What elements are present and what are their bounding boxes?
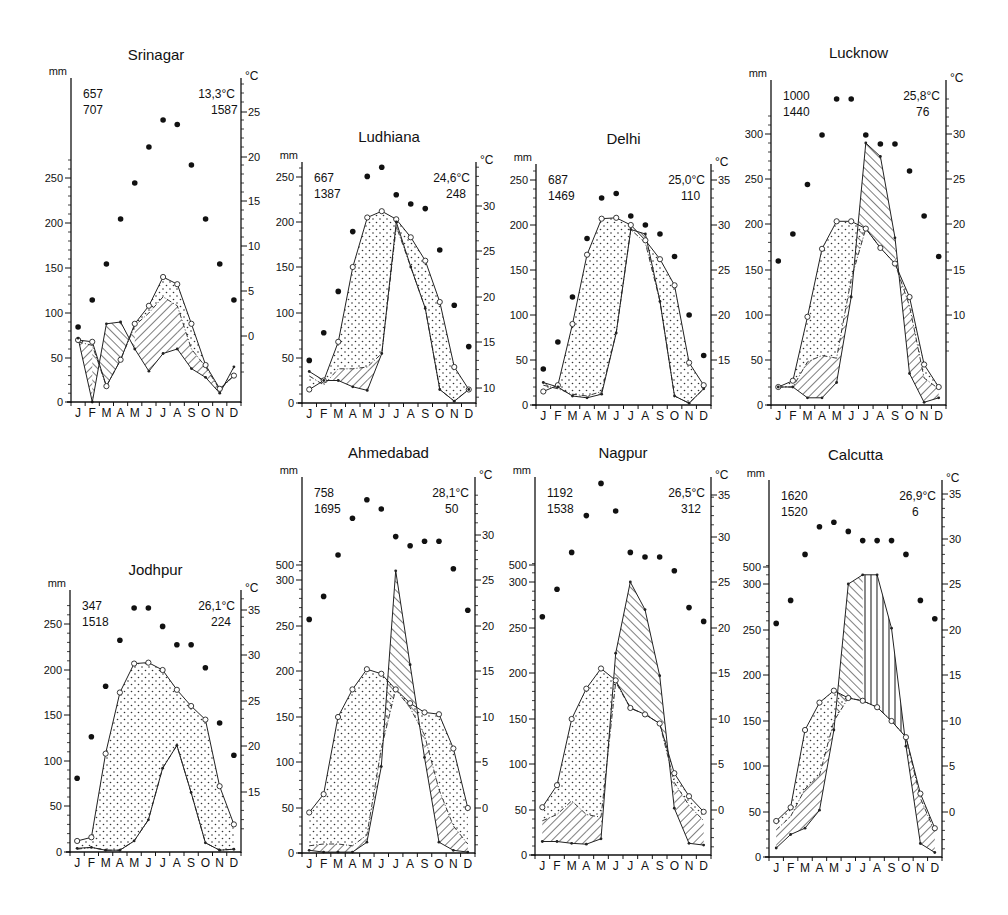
month-label: D — [463, 857, 472, 871]
right-axis-tick-label: 25 — [718, 576, 730, 588]
temperature-point — [408, 201, 414, 207]
left-axis-tick-label: 100 — [510, 309, 528, 321]
month-label: S — [656, 859, 664, 873]
month-label: J — [379, 407, 385, 421]
right-axis-tick-label: 15 — [483, 336, 495, 348]
temperature-point — [584, 236, 590, 242]
annual-precipitation: 758 — [314, 486, 334, 500]
month-label: N — [916, 861, 925, 875]
annual-potential-evapotranspiration: 1538 — [547, 502, 574, 516]
left-axis-unit: mm — [749, 67, 767, 79]
month-label: F — [553, 859, 560, 873]
month-label: J — [627, 859, 633, 873]
month-label: F — [320, 407, 327, 421]
left-axis-tick-label: 150 — [276, 261, 294, 273]
month-label: J — [306, 857, 312, 871]
left-axis-tick-label: 0 — [521, 849, 527, 861]
left-axis-tick-label: 250 — [44, 618, 62, 630]
mean-annual-temperature: 25,0°C — [668, 173, 705, 187]
temperature-point — [819, 132, 825, 138]
temperature-point — [231, 752, 237, 758]
month-label: J — [848, 409, 854, 423]
left-axis-tick-label: 150 — [745, 264, 763, 276]
right-axis-tick-label: 25 — [718, 264, 730, 276]
right-axis-tick-label: 5 — [949, 760, 955, 772]
left-axis-tick-label: 150 — [510, 264, 528, 276]
month-label: A — [876, 409, 884, 423]
left-axis-tick-label: 0 — [288, 847, 294, 859]
month-label: A — [116, 856, 124, 870]
right-axis-tick-label: 30 — [953, 128, 965, 140]
temperature-point — [160, 117, 166, 123]
right-axis-tick-label: 15 — [718, 354, 730, 366]
altitude-m: 312 — [681, 502, 701, 516]
temperature-point — [878, 141, 884, 147]
right-axis-tick-label: 20 — [248, 740, 260, 752]
month-label: A — [117, 406, 125, 420]
month-label: J — [160, 406, 166, 420]
left-axis-tick-label: 250 — [745, 173, 763, 185]
right-axis-tick-label: 30 — [483, 200, 495, 212]
left-axis-tick-label: 200 — [745, 218, 763, 230]
temperature-point — [863, 132, 869, 138]
right-axis-tick-label: 15 — [482, 665, 494, 677]
temperature-point — [628, 550, 634, 556]
temperature-point — [379, 164, 385, 170]
month-label: N — [685, 409, 694, 423]
month-label: O — [201, 406, 210, 420]
left-axis-unit: mm — [48, 577, 66, 589]
diagram-title: Ludhiana — [358, 128, 420, 145]
month-label: O — [901, 861, 910, 875]
left-axis-tick-label: 250 — [276, 620, 294, 632]
right-axis-tick-label: 30 — [248, 649, 260, 661]
month-label: S — [421, 407, 429, 421]
temperature-point — [540, 614, 546, 620]
left-axis-unit: mm — [513, 464, 531, 476]
right-axis-unit: °C — [946, 471, 960, 485]
month-label: A — [583, 409, 591, 423]
month-label: J — [306, 407, 312, 421]
temperature-point — [570, 294, 576, 300]
temperature-point — [907, 168, 913, 174]
month-label: N — [449, 857, 458, 871]
annual-precipitation: 1000 — [783, 89, 810, 103]
right-axis-tick-label: 15 — [248, 786, 260, 798]
temperature-point — [848, 96, 854, 102]
month-label: J — [393, 857, 399, 871]
month-label: D — [230, 856, 239, 870]
annual-potential-evapotranspiration: 1387 — [314, 187, 341, 201]
climate-diagram-srinagar: JFMAMJJASOND0501001502002500510152025mm°… — [45, 46, 261, 420]
month-label: M — [333, 857, 343, 871]
temperature-point — [555, 339, 561, 345]
month-label: M — [101, 406, 111, 420]
month-label: F — [787, 861, 794, 875]
month-label: F — [89, 406, 96, 420]
temperature-point — [845, 529, 851, 535]
left-axis-tick-label: 0 — [56, 846, 62, 858]
month-label: A — [582, 859, 590, 873]
right-axis-tick-label: 15 — [248, 195, 260, 207]
left-axis-tick-label: 100 — [745, 309, 763, 321]
month-label: N — [215, 406, 224, 420]
annual-potential-evapotranspiration: 1469 — [548, 189, 575, 203]
month-label: J — [145, 856, 151, 870]
right-axis-tick-label: 25 — [482, 574, 494, 586]
temperature-point — [393, 192, 399, 198]
month-label: O — [435, 407, 444, 421]
left-axis-unit: mm — [280, 149, 298, 161]
left-axis-tick-label: 50 — [282, 352, 294, 364]
month-label: D — [464, 407, 473, 421]
right-axis-tick-label: 20 — [483, 291, 495, 303]
annual-potential-evapotranspiration: 1518 — [82, 615, 109, 629]
altitude-m: 110 — [681, 189, 700, 203]
month-label: M — [596, 859, 606, 873]
temperature-point — [834, 96, 840, 102]
temperature-point — [936, 254, 942, 260]
left-axis-tick-label: 150 — [276, 711, 294, 723]
climate-diagram-jodhpur: JFMAMJJASOND0501001502002501520253035mm°… — [44, 561, 261, 870]
temperature-point — [217, 720, 223, 726]
month-label: A — [173, 406, 181, 420]
temperature-point — [701, 353, 707, 359]
month-label: J — [539, 859, 545, 873]
annual-precipitation: 657 — [83, 87, 103, 101]
